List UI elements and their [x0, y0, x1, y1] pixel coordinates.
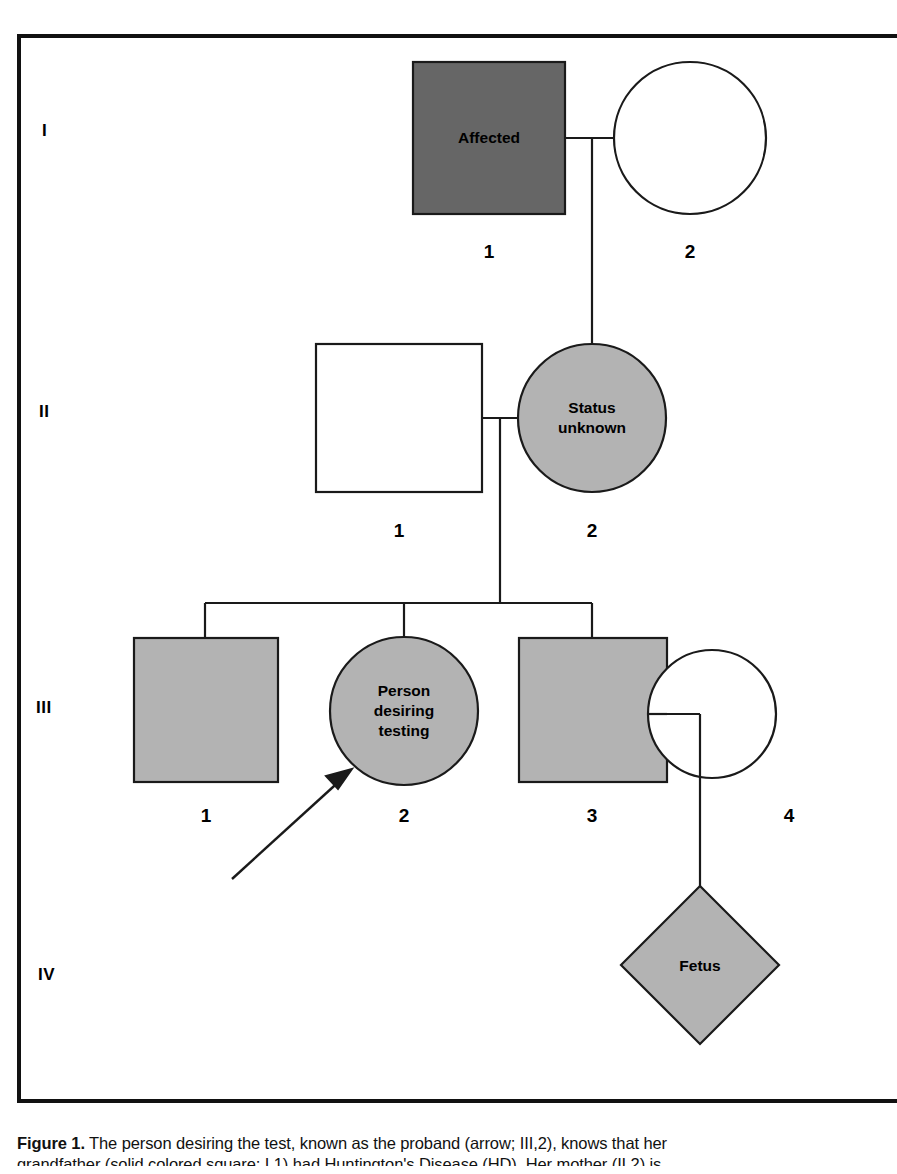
individual-III-3-square[interactable]	[519, 638, 667, 782]
caption-line-1: Figure 1. The person desiring the test, …	[17, 1133, 865, 1154]
individual-II-1-square[interactable]	[316, 344, 482, 492]
individual-number-I-2: 2	[685, 241, 696, 263]
proband-arrow	[232, 769, 352, 879]
individual-I-1-square[interactable]	[413, 62, 565, 214]
generation-label-III: III	[36, 698, 52, 718]
pedigree-chart	[0, 0, 878, 1110]
individual-I-2-circle[interactable]	[614, 62, 766, 214]
individual-number-III-1: 1	[201, 805, 212, 827]
figure-caption: Figure 1. The person desiring the test, …	[17, 1133, 865, 1166]
caption-text-line-1: The person desiring the test, known as t…	[85, 1134, 667, 1152]
generation-label-IV: IV	[38, 965, 55, 985]
individual-number-II-1: 1	[394, 520, 405, 542]
individual-IV-1-diamond-fetus[interactable]	[621, 886, 779, 1044]
caption-figure-number: Figure 1.	[17, 1134, 85, 1152]
individual-III-2-circle-proband[interactable]	[330, 637, 478, 785]
individual-number-II-2: 2	[587, 520, 598, 542]
individual-number-III-2: 2	[399, 805, 410, 827]
individual-number-III-3: 3	[587, 805, 598, 827]
individual-II-2-circle[interactable]	[518, 344, 666, 492]
individual-number-III-4: 4	[784, 805, 795, 827]
caption-line-2: grandfather (solid colored square; I,1) …	[17, 1154, 865, 1166]
generation-label-II: II	[39, 402, 49, 422]
generation-label-I: I	[42, 121, 47, 141]
individual-number-I-1: 1	[484, 241, 495, 263]
individual-III-1-square[interactable]	[134, 638, 278, 782]
